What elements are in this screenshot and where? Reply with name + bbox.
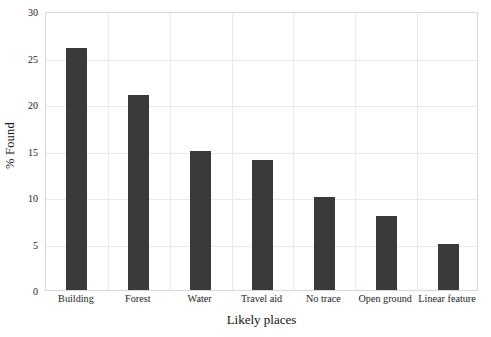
y-tick-label: 25 <box>28 53 38 64</box>
bars-layer <box>46 13 477 290</box>
bar <box>376 216 397 290</box>
y-axis-tick-labels: 051015202530 <box>14 0 42 291</box>
x-axis-title: Likely places <box>45 312 478 328</box>
plot-area <box>45 12 478 291</box>
y-tick-label: 0 <box>33 286 38 297</box>
x-tick-label: Forest <box>125 293 150 304</box>
bar <box>66 48 87 290</box>
bar <box>438 244 459 291</box>
x-tick-label: Open ground <box>358 293 411 304</box>
y-tick-label: 30 <box>28 7 38 18</box>
y-tick-label: 5 <box>33 239 38 250</box>
y-tick-label: 20 <box>28 100 38 111</box>
bar <box>128 95 149 290</box>
x-tick-label: Linear feature <box>418 293 475 304</box>
bar <box>252 160 273 290</box>
x-tick-label: Water <box>188 293 212 304</box>
x-tick-label: Building <box>58 293 94 304</box>
x-tick-label: Travel aid <box>241 293 282 304</box>
y-tick-label: 10 <box>28 193 38 204</box>
x-tick-label: No trace <box>306 293 341 304</box>
bar <box>190 151 211 291</box>
bar-chart: % Found 051015202530 BuildingForestWater… <box>0 0 491 337</box>
y-tick-label: 15 <box>28 146 38 157</box>
bar <box>314 197 335 290</box>
x-axis-title-text: Likely places <box>227 312 297 327</box>
x-axis-tick-labels: BuildingForestWaterTravel aidNo traceOpe… <box>45 293 478 311</box>
